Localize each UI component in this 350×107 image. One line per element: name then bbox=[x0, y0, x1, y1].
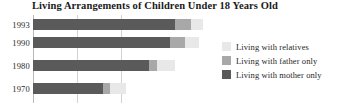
y-axis-label: 1980 bbox=[0, 61, 30, 71]
legend-swatch-icon bbox=[222, 42, 231, 51]
bar-segment bbox=[33, 83, 103, 94]
bar-segment bbox=[170, 37, 186, 48]
legend-label: Living with relatives bbox=[236, 42, 309, 52]
bar-segment bbox=[191, 19, 203, 30]
bar-row bbox=[33, 37, 208, 48]
legend-swatch-icon bbox=[222, 70, 231, 79]
y-axis-label: 1993 bbox=[0, 20, 30, 30]
bar-segment bbox=[149, 60, 158, 71]
plot-area bbox=[33, 15, 208, 103]
bar-segment bbox=[185, 37, 199, 48]
bar-segment bbox=[103, 83, 110, 94]
bar-row bbox=[33, 83, 208, 94]
bar-segment bbox=[33, 60, 149, 71]
y-axis-label: 1970 bbox=[0, 84, 30, 94]
legend-label: Living with father only bbox=[236, 56, 317, 66]
bar-segment bbox=[157, 60, 175, 71]
bar-row bbox=[33, 19, 208, 30]
bar-segment bbox=[33, 37, 170, 48]
chart-title: Living Arrangements of Children Under 18… bbox=[0, 0, 310, 11]
bar-segment bbox=[175, 19, 191, 30]
legend-item[interactable]: Living with mother only bbox=[222, 68, 350, 81]
legend-label: Living with mother only bbox=[236, 70, 322, 80]
y-axis-label: 1990 bbox=[0, 38, 30, 48]
bar-row bbox=[33, 60, 208, 71]
legend-item[interactable]: Living with relatives bbox=[222, 40, 350, 53]
chart-legend: Living with relativesLiving with father … bbox=[222, 40, 350, 82]
bar-segment bbox=[110, 83, 126, 94]
bar-segment bbox=[33, 19, 175, 30]
legend-item[interactable]: Living with father only bbox=[222, 54, 350, 67]
legend-swatch-icon bbox=[222, 56, 231, 65]
chart-container: Living Arrangements of Children Under 18… bbox=[0, 0, 350, 107]
